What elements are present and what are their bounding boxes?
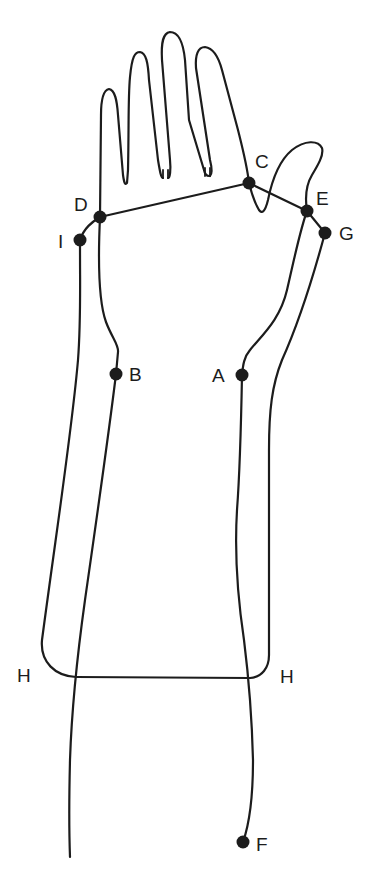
label-h-right: H — [280, 666, 294, 687]
point-i-marker — [74, 234, 87, 247]
splint-bottom-edge — [76, 655, 269, 678]
label-f: F — [256, 834, 268, 855]
label-c: C — [255, 151, 269, 172]
point-e-marker — [301, 205, 314, 218]
point-b-marker — [110, 368, 123, 381]
point-d-marker — [94, 211, 107, 224]
splint-diagram: C D E G I B A F H H — [0, 0, 377, 886]
label-i: I — [58, 231, 63, 252]
label-b: B — [129, 364, 142, 385]
wrist-line — [100, 183, 325, 233]
left-splint-edge — [42, 217, 100, 677]
point-c-marker — [243, 177, 256, 190]
label-g: G — [339, 223, 354, 244]
label-a: A — [212, 365, 225, 386]
label-h-left: H — [17, 665, 31, 686]
point-f-marker — [237, 836, 250, 849]
label-e: E — [316, 188, 329, 209]
right-forearm-line — [236, 375, 253, 842]
hand-fingers-outline — [100, 32, 249, 217]
left-forearm-line — [69, 374, 116, 857]
point-a-marker — [236, 369, 249, 382]
label-d: D — [74, 194, 88, 215]
right-splint-edge — [269, 233, 325, 655]
right-inner-contour — [242, 211, 307, 375]
point-g-marker — [319, 227, 332, 240]
left-inner-contour — [99, 217, 118, 374]
